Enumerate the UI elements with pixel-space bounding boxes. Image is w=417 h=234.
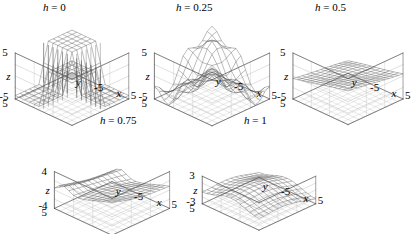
x-tick-max: 5 (318, 195, 324, 206)
z-tick-max: 4 (41, 166, 47, 177)
x-tick-min: -5 (94, 82, 103, 93)
z-axis-label: z (6, 71, 10, 82)
panel-title: h = 0.5 (315, 1, 346, 13)
surface-wireframe (10, 14, 140, 114)
y-tick-near: 5 (2, 98, 8, 109)
panel-title: h = 0.75 (100, 114, 136, 126)
panel-title: h = 0.25 (176, 1, 212, 13)
panel-title: h = 1 (244, 114, 267, 126)
y-tick-near: 5 (41, 207, 47, 218)
z-axis-label: z (145, 71, 149, 82)
z-tick-max: 5 (141, 47, 147, 58)
surface-panel: 5-5z5y-5x5 (288, 14, 414, 114)
surface-panel: 5-5z5y-5x5 (148, 14, 280, 114)
param-value: = 0 (49, 1, 66, 13)
x-axis-label: x (392, 88, 397, 99)
surface-wireframe (148, 14, 280, 114)
x-axis-label: x (257, 88, 262, 99)
z-tick-max: 5 (2, 47, 8, 58)
surface-wireframe (48, 128, 180, 228)
z-tick-max: 3 (189, 170, 195, 181)
y-axis-label: y (216, 76, 221, 87)
y-tick-near: 5 (141, 98, 147, 109)
param-value: = 1 (250, 114, 267, 126)
x-tick-min: -5 (234, 81, 243, 92)
y-axis-label: y (263, 181, 268, 192)
y-axis-label: y (116, 186, 121, 197)
z-axis-label: z (193, 185, 197, 196)
y-tick-near: 5 (189, 203, 195, 214)
x-tick-max: 5 (131, 90, 137, 101)
panel-title: h = 0 (43, 1, 66, 13)
x-tick-max: 5 (405, 90, 411, 101)
x-tick-min: -5 (134, 191, 143, 202)
z-axis-label: z (284, 71, 288, 82)
surface-panel: 5-5z5y-5x5 (10, 14, 140, 114)
z-axis-label: z (45, 185, 49, 196)
surface-wireframe (196, 128, 326, 228)
y-tick-near: 5 (280, 98, 286, 109)
y-axis-label: y (352, 77, 357, 88)
surface-panel: 3-3z5y-5x5 (196, 128, 326, 228)
x-axis-label: x (157, 197, 162, 208)
x-tick-max: 5 (172, 199, 178, 210)
surface-panel: 4-4z5y-5x5 (48, 128, 180, 228)
x-tick-min: -5 (370, 82, 379, 93)
x-axis-label: x (116, 88, 121, 99)
surface-plot-figure: 5-5z5y-5x5h = 05-5z5y-5x5h = 0.255-5z5y-… (0, 0, 417, 234)
x-axis-label: x (303, 193, 308, 204)
z-tick-max: 5 (280, 47, 286, 58)
y-axis-label: y (76, 77, 81, 88)
x-tick-min: -5 (281, 186, 290, 197)
param-value: = 0.75 (106, 114, 137, 126)
param-value: = 0.5 (321, 1, 346, 13)
param-value: = 0.25 (182, 1, 213, 13)
